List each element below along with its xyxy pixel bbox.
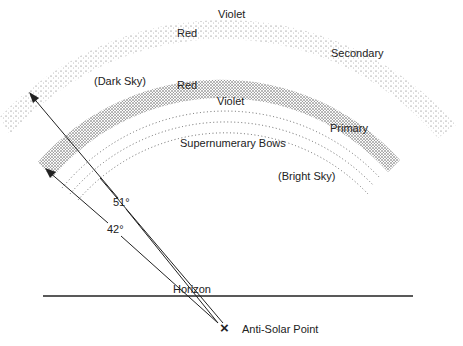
anti-solar-marker-icon: × xyxy=(220,320,229,335)
label-secondary-red: Red xyxy=(177,28,197,39)
label-dark-sky: (Dark Sky) xyxy=(94,76,146,87)
rainbow-diagram: Violet Red Secondary (Dark Sky) Red Viol… xyxy=(0,0,463,346)
ray-42-b xyxy=(48,171,108,223)
label-secondary: Secondary xyxy=(331,48,384,59)
secondary-bow-band xyxy=(0,20,456,138)
label-anti-solar-point: Anti-Solar Point xyxy=(242,324,318,335)
label-primary: Primary xyxy=(330,123,368,134)
ray-51-lower xyxy=(126,209,218,323)
diagram-canvas xyxy=(0,0,463,346)
supernumerary-bow-2 xyxy=(70,122,374,194)
label-angle-42: 42° xyxy=(107,224,124,235)
label-bright-sky: (Bright Sky) xyxy=(278,171,335,182)
label-angle-51: 51° xyxy=(113,197,130,208)
label-horizon: Horizon xyxy=(173,284,211,295)
label-primary-violet: Violet xyxy=(217,96,244,107)
label-secondary-violet: Violet xyxy=(218,9,245,20)
ray-42-a xyxy=(121,236,218,323)
label-primary-red: Red xyxy=(177,80,197,91)
label-supernumerary-bows: Supernumerary Bows xyxy=(180,138,286,149)
